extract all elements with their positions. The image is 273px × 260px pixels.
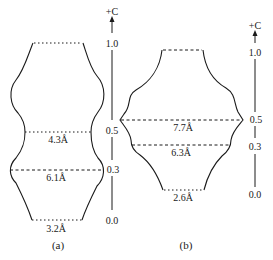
profile-a-width-label-3: 3.2Å: [46, 223, 67, 234]
profile-b-width-label-2: 6.3Å: [171, 147, 192, 158]
figure-a-caption: (a): [52, 239, 65, 252]
axis-a-tick-0.0: 0.0: [106, 215, 119, 226]
axis-b-tick-0.0: 0.0: [249, 189, 262, 200]
figure-b: 7.7Å 6.3Å 2.6Å +C 1.0 0.5 0.3 0.0 (b): [120, 20, 262, 252]
profile-b-width-label-3: 2.6Å: [173, 192, 194, 203]
figure-a: 4.3Å 6.1Å 3.2Å +C 1.0 0.5 0.3 0.0 (a): [10, 6, 119, 252]
axis-b-label: +C: [249, 20, 262, 31]
axis-b-tick-1.0: 1.0: [249, 47, 262, 58]
axis-a-label: +C: [106, 6, 119, 17]
axis-a-tick-0.5: 0.5: [106, 125, 119, 136]
channel-profile-diagram: 4.3Å 6.1Å 3.2Å +C 1.0 0.5 0.3 0.0 (a) 7.…: [0, 0, 273, 260]
axis-b-tick-0.3: 0.3: [249, 141, 262, 152]
axis-b-tick-0.5: 0.5: [250, 114, 263, 125]
axis-a-tick-1.0: 1.0: [106, 38, 119, 49]
axis-a-tick-0.3: 0.3: [107, 164, 120, 175]
profile-a-width-label-1: 4.3Å: [48, 134, 69, 145]
profile-a-width-label-2: 6.1Å: [46, 172, 67, 183]
profile-b-width-label-1: 7.7Å: [173, 122, 194, 133]
figure-b-caption: (b): [180, 239, 193, 252]
